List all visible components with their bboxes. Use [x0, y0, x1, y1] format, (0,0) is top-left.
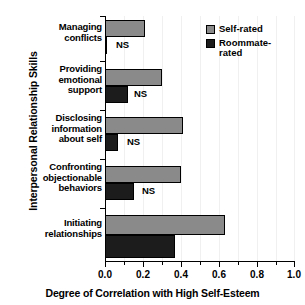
- bar-roommate-rated-confronting-objectionable-behaviors: [105, 183, 134, 200]
- legend-item-roommate-rated: Roommate- rated: [206, 38, 271, 59]
- bar-self-rated-providing-emotional-support: [105, 69, 162, 86]
- category-line: support: [14, 85, 102, 96]
- x-tick-label-5: 1.0: [287, 269, 301, 280]
- plot-area: NS NS NS NS Self-rated Roommate- rated: [105, 16, 295, 262]
- x-axis-tick-minor: [276, 262, 277, 265]
- x-axis-tick-major: [294, 262, 295, 267]
- category-line: Managing: [14, 22, 102, 33]
- category-line: Disclosing: [14, 113, 102, 124]
- bar-self-rated-managing-conflicts: [105, 20, 145, 37]
- y-axis-tick: [100, 110, 105, 111]
- category-label-providing-emotional-support: Providing emotional support: [14, 64, 102, 96]
- x-axis-tick-minor: [238, 262, 239, 265]
- category-labels: Managing conflicts Providing emotional s…: [12, 0, 102, 262]
- x-tick-label-1: 0.2: [136, 269, 150, 280]
- legend-swatch-self-rated-icon: [206, 25, 215, 34]
- legend-swatch-roommate-rated-icon: [206, 39, 215, 48]
- y-axis-tick: [100, 16, 105, 17]
- x-tick-label-0: 0.0: [98, 269, 112, 280]
- y-axis-tick: [100, 208, 105, 209]
- legend-item-self-rated: Self-rated: [206, 24, 271, 35]
- x-tick-label-3: 0.6: [212, 269, 226, 280]
- gridline: [276, 16, 277, 262]
- x-axis-tick-major: [219, 262, 220, 267]
- category-label-initiating-relationships: Initiating relationships: [14, 218, 102, 239]
- x-axis-tick-minor: [162, 262, 163, 265]
- category-line: behaviors: [14, 183, 102, 194]
- category-line: Providing: [14, 64, 102, 75]
- category-line: conflicts: [14, 33, 102, 44]
- y-axis-line: [105, 16, 106, 262]
- bar-roommate-rated-providing-emotional-support: [105, 86, 128, 103]
- category-label-disclosing-information-about-self: Disclosing information about self: [14, 113, 102, 145]
- x-axis-tick-minor: [200, 262, 201, 265]
- x-axis-tick-major: [105, 262, 106, 267]
- gridline: [294, 16, 295, 262]
- category-line: Confronting: [14, 162, 102, 173]
- x-axis-tick-major: [257, 262, 258, 267]
- legend-label-roommate-rated: Roommate- rated: [219, 38, 271, 59]
- y-axis-tick: [100, 61, 105, 62]
- category-label-confronting-objectionable-behaviors: Confronting objectionable behaviors: [14, 162, 102, 194]
- x-tick-label-2: 0.4: [174, 269, 188, 280]
- category-line: relationships: [14, 229, 102, 240]
- bar-roommate-rated-initiating-relationships: [105, 235, 175, 258]
- category-label-managing-conflicts: Managing conflicts: [14, 22, 102, 43]
- ns-annotation-disclosing-information-about-self: NS: [127, 136, 140, 147]
- ns-annotation-managing-conflicts: NS: [116, 39, 129, 50]
- x-axis-title: Degree of Correlation with High Self-Est…: [0, 287, 305, 299]
- bar-roommate-rated-disclosing-information-about-self: [105, 134, 118, 151]
- ns-annotation-providing-emotional-support: NS: [134, 88, 147, 99]
- bar-self-rated-initiating-relationships: [105, 215, 225, 235]
- chart-legend: Self-rated Roommate- rated: [206, 24, 271, 62]
- x-axis-tick-major: [143, 262, 144, 267]
- ns-annotation-confronting-objectionable-behaviors: NS: [142, 185, 155, 196]
- bar-self-rated-confronting-objectionable-behaviors: [105, 166, 181, 183]
- category-line: about self: [14, 134, 102, 145]
- bar-self-rated-disclosing-information-about-self: [105, 117, 183, 134]
- y-axis-tick: [100, 159, 105, 160]
- legend-label-self-rated: Self-rated: [219, 24, 271, 35]
- x-axis-tick-minor: [124, 262, 125, 265]
- x-tick-label-4: 0.8: [250, 269, 264, 280]
- chart-figure: Interpersonal Relationship Skills Managi…: [0, 0, 305, 305]
- category-line: Initiating: [14, 218, 102, 229]
- x-axis-tick-major: [181, 262, 182, 267]
